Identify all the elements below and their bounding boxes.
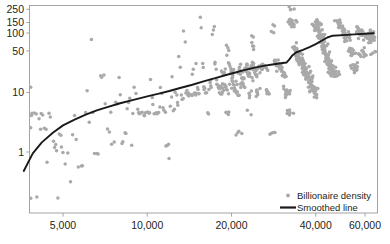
data-point (109, 110, 113, 114)
data-point (169, 105, 173, 109)
data-point (54, 143, 58, 147)
data-point (273, 131, 277, 135)
data-point (157, 111, 161, 115)
data-point (61, 151, 65, 155)
data-point (285, 112, 289, 116)
data-point (102, 73, 106, 77)
data-point (347, 49, 351, 53)
y-axis-ticks (26, 9, 29, 152)
data-point (192, 67, 196, 71)
y-tick-label: 150 (6, 16, 24, 28)
data-point (124, 132, 128, 136)
data-point (246, 108, 250, 112)
data-point (29, 126, 33, 129)
plot-border (30, 6, 378, 214)
y-tick-label: 1 (18, 146, 24, 158)
data-point (235, 83, 239, 87)
data-point (53, 146, 57, 150)
data-point (357, 52, 361, 56)
data-point (249, 113, 253, 117)
data-point (230, 86, 234, 90)
data-point (230, 76, 234, 80)
data-point (29, 197, 33, 201)
data-point (151, 103, 155, 107)
x-axis-tick-labels: 5,00010,00020,00040,00060,000 (50, 219, 381, 231)
data-point (167, 157, 171, 161)
data-point (266, 69, 270, 73)
data-point (182, 97, 186, 101)
data-point (252, 35, 256, 39)
legend-dot-marker (286, 194, 290, 198)
data-point (136, 108, 140, 112)
data-point (74, 138, 78, 142)
data-point (315, 96, 319, 100)
data-point (316, 87, 320, 91)
data-point (167, 143, 171, 147)
data-point (140, 110, 144, 114)
data-point (334, 65, 338, 69)
y-tick-label: 250 (6, 3, 24, 15)
data-point (37, 117, 41, 121)
data-point (34, 112, 38, 116)
data-point (170, 95, 174, 99)
x-tick-label: 40,000 (300, 219, 332, 231)
data-point (237, 130, 241, 134)
data-point (332, 75, 336, 79)
data-point (194, 62, 198, 66)
data-point (240, 83, 244, 87)
data-point (363, 46, 367, 50)
data-point (294, 48, 298, 52)
data-point (337, 26, 341, 30)
data-point (205, 91, 209, 95)
chart-canvas: 11050100150250 5,00010,00020,00040,00060… (0, 0, 390, 244)
data-point (149, 78, 153, 82)
data-point (250, 76, 254, 80)
data-point (292, 7, 296, 11)
data-point (177, 55, 181, 59)
data-point (96, 152, 100, 156)
data-point (364, 54, 368, 58)
data-point (310, 80, 314, 84)
data-point (237, 94, 241, 98)
data-point (334, 70, 338, 74)
data-point (148, 111, 152, 115)
scatter-chart: 11050100150250 5,00010,00020,00040,00060… (0, 0, 390, 244)
data-point (248, 94, 252, 98)
data-point (305, 75, 309, 79)
data-point (250, 41, 254, 45)
data-point (212, 28, 216, 32)
data-point (250, 89, 254, 93)
data-point (337, 22, 341, 26)
data-point (319, 22, 323, 26)
data-point (103, 102, 107, 106)
data-point (45, 160, 49, 164)
data-point (134, 92, 138, 96)
data-point (175, 93, 179, 97)
data-point (203, 87, 207, 91)
x-axis-ticks (63, 213, 365, 217)
data-point (251, 79, 255, 83)
data-point (176, 103, 180, 107)
data-point (227, 92, 231, 96)
data-point (324, 53, 328, 57)
data-point (343, 28, 347, 32)
x-tick-label: 5,000 (50, 219, 76, 231)
y-tick-label: 50 (12, 45, 24, 57)
data-point (221, 82, 225, 86)
data-point (367, 41, 371, 45)
data-point (66, 151, 70, 155)
data-point (258, 71, 262, 75)
data-point (158, 105, 162, 109)
data-point (328, 72, 332, 76)
data-point (357, 37, 361, 41)
data-point (288, 108, 292, 112)
data-point (239, 62, 243, 66)
data-point (251, 44, 255, 48)
data-point (295, 20, 299, 24)
data-point (199, 15, 203, 19)
data-point (283, 75, 287, 79)
data-point (224, 67, 228, 71)
data-point (29, 86, 33, 90)
data-point (308, 71, 312, 75)
data-point (296, 56, 300, 60)
